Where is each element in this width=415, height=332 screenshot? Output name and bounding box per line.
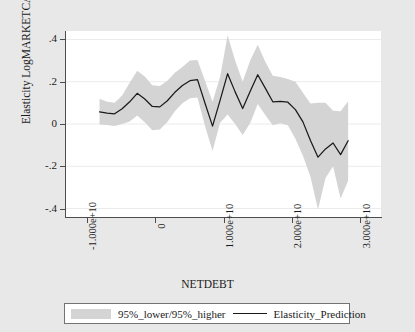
x-tick-label: 0	[156, 223, 168, 228]
legend-line-prediction	[233, 313, 267, 314]
x-tick: 3.000e+10	[360, 218, 361, 223]
y-tick: 0	[60, 124, 65, 125]
y-axis-line	[65, 31, 66, 218]
chart-legend: 95%_lower/95%_higher Elasticity_Predicti…	[64, 303, 350, 324]
plot-svg	[66, 31, 381, 217]
y-tick: -.4	[60, 209, 65, 210]
chart-screenshot: .4.20-.2-.4 -1.000e+1001.000e+102.000e+1…	[0, 0, 415, 332]
chart-figure: .4.20-.2-.4 -1.000e+1001.000e+102.000e+1…	[6, 6, 409, 326]
y-tick-label: .2	[49, 75, 57, 88]
x-tick-label: 2.000e+10	[292, 204, 304, 249]
legend-label-prediction: Elasticity_Prediction	[274, 308, 366, 320]
confidence-band-95	[100, 35, 349, 209]
legend-label-band: 95%_lower/95%_higher	[118, 308, 226, 320]
x-axis-title: NETDEBT	[6, 278, 409, 291]
x-tick-label: 1.000e+10	[224, 204, 236, 249]
x-tick: -1.000e+10	[87, 218, 88, 223]
y-axis-title: Elasticity LogMARKETCAP	[20, 0, 33, 124]
y-tick: .2	[60, 82, 65, 83]
y-tick-label: .4	[49, 32, 57, 45]
x-tick: 0	[155, 218, 156, 223]
x-tick: 2.000e+10	[292, 218, 293, 223]
x-tick: 1.000e+10	[224, 218, 225, 223]
x-tick-label: -1.000e+10	[87, 202, 99, 250]
y-tick: .4	[60, 39, 65, 40]
y-tick-label: -.2	[45, 159, 57, 172]
y-tick: -.2	[60, 166, 65, 167]
y-tick-label: -.4	[45, 202, 57, 215]
plot-area	[66, 31, 381, 217]
y-tick-label: 0	[52, 117, 58, 130]
legend-swatch-band	[71, 309, 111, 319]
x-tick-label: 3.000e+10	[361, 204, 373, 249]
